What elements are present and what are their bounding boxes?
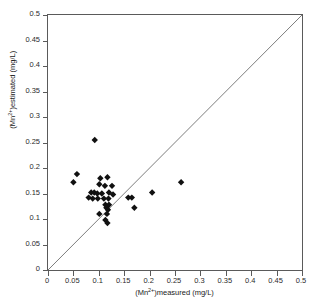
identity-reference-line xyxy=(48,15,302,270)
plot-canvas xyxy=(48,15,302,270)
y-axis-tick-mark xyxy=(43,66,48,67)
x-axis-tick-mark xyxy=(200,271,201,276)
scatter-plot-figure: 00.050.10.150.20.250.30.350.40.450.5 00.… xyxy=(0,0,317,306)
data-point xyxy=(105,195,111,201)
y-axis-title-suffix: )estimated (mg/L) xyxy=(8,51,17,110)
x-axis-tick-mark xyxy=(73,271,74,276)
x-axis-title-suffix: )measured (mg/L) xyxy=(154,288,214,297)
data-point xyxy=(104,174,110,180)
data-point xyxy=(95,195,101,201)
x-axis-tick-mark xyxy=(302,271,303,276)
y-axis-tick-mark xyxy=(43,219,48,220)
x-axis-tick-mark xyxy=(150,271,151,276)
y-axis-tick-mark xyxy=(43,41,48,42)
x-axis-tick-mark xyxy=(226,271,227,276)
x-axis-title: (Mn2+)measured (mg/L) xyxy=(47,289,302,297)
y-axis-tick-mark xyxy=(43,143,48,144)
y-axis-tick-mark xyxy=(43,245,48,246)
x-axis-tick-mark xyxy=(277,271,278,276)
data-point xyxy=(92,137,98,143)
y-axis-title-prefix: (Mn xyxy=(8,116,17,129)
y-axis-title: (Mn2+)estimated (mg/L) xyxy=(9,30,17,150)
data-point xyxy=(109,183,115,189)
x-axis-tick-mark xyxy=(124,271,125,276)
y-axis-title-charge: 2+ xyxy=(7,110,13,116)
data-point xyxy=(149,189,155,195)
data-point xyxy=(74,171,80,177)
data-point xyxy=(70,179,76,185)
y-axis-tick-mark xyxy=(43,117,48,118)
x-axis-tick-label: 0.5 xyxy=(286,277,316,285)
x-axis-tick-mark xyxy=(251,271,252,276)
plot-area xyxy=(47,14,303,271)
y-axis-tick-mark xyxy=(43,92,48,93)
y-axis-tick-mark xyxy=(43,15,48,16)
data-point xyxy=(96,181,102,187)
data-point xyxy=(178,179,184,185)
data-point xyxy=(102,183,108,189)
data-point xyxy=(131,205,137,211)
x-axis-tick-mark xyxy=(99,271,100,276)
data-point xyxy=(97,175,103,181)
x-axis-tick-mark xyxy=(175,271,176,276)
x-axis-title-prefix: (Mn xyxy=(135,288,148,297)
data-point xyxy=(129,194,135,200)
y-axis-tick-mark xyxy=(43,194,48,195)
y-axis-tick-mark xyxy=(43,168,48,169)
x-axis-tick-mark xyxy=(48,271,49,276)
